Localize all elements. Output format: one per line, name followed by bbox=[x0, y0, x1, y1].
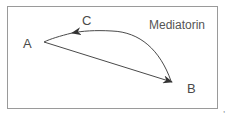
node-c-label: C bbox=[82, 14, 91, 27]
node-b-label: B bbox=[187, 82, 196, 95]
curve-tail-to-a bbox=[44, 33, 72, 42]
node-a-label: A bbox=[23, 37, 32, 50]
diagram-title: Mediatorin bbox=[149, 19, 205, 31]
trailing-comma: , bbox=[223, 106, 225, 114]
edge-a-to-b bbox=[44, 42, 172, 82]
